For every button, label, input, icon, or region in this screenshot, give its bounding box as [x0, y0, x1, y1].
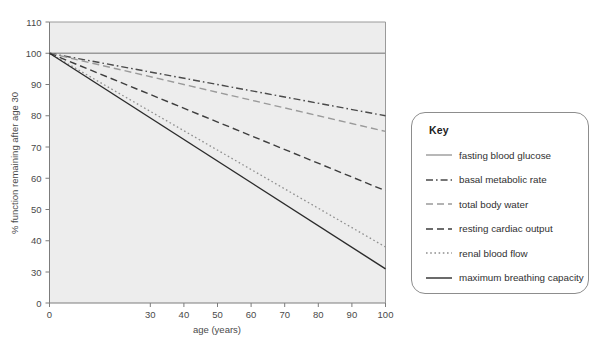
legend-item-total-body-water[interactable]: total body water	[426, 192, 582, 217]
legend-item-renal-blood-flow[interactable]: renal blood flow	[426, 241, 582, 266]
legend-title: Key	[429, 124, 449, 136]
legend-item-fasting-blood-glucose[interactable]: fasting blood glucose	[426, 143, 582, 168]
y-tick-label: 90	[31, 79, 42, 90]
y-axis-title: % function remaining after age 30	[9, 92, 20, 234]
y-tick-label: 70	[31, 142, 42, 153]
y-tick-label: 110	[26, 17, 41, 28]
x-tick-label: 70	[279, 309, 290, 320]
y-tick-label: 30	[31, 267, 42, 278]
x-axis-ticks: 030405060708090100	[47, 303, 394, 320]
legend-item-maximum-breathing-capacity[interactable]: maximum breathing capacity	[426, 266, 582, 291]
legend-item-label: basal metabolic rate	[459, 174, 547, 185]
legend-line-swatch-dashed-icon	[426, 223, 452, 235]
y-tick-label: 60	[31, 173, 42, 184]
x-tick-label: 30	[145, 309, 156, 320]
y-axis-ticks: 030405060708090100110	[26, 17, 50, 309]
aging-function-line-chart: 030405060708090100110 030405060708090100…	[0, 0, 400, 348]
legend-item-label: total body water	[459, 199, 528, 210]
x-tick-label: 80	[313, 309, 324, 320]
legend-item-label: resting cardiac output	[459, 223, 553, 234]
y-tick-label: 80	[31, 110, 42, 121]
legend-line-swatch-dash-dot-icon	[426, 174, 452, 186]
y-tick-label: 100	[26, 48, 42, 59]
x-tick-label: 90	[347, 309, 358, 320]
legend-item-label: maximum breathing capacity	[459, 272, 584, 283]
legend-line-swatch-dotted-icon	[426, 247, 452, 259]
y-tick-label: 40	[31, 235, 42, 246]
y-tick-label: 50	[31, 204, 42, 215]
x-tick-label: 50	[212, 309, 223, 320]
legend-line-swatch-solid-icon	[426, 272, 452, 284]
legend-items-list: fasting blood glucosebasal metabolic rat…	[426, 143, 582, 290]
legend-item-basal-metabolic-rate[interactable]: basal metabolic rate	[426, 168, 582, 193]
legend-item-label: renal blood flow	[459, 248, 528, 259]
x-tick-label: 0	[47, 309, 52, 320]
legend-line-swatch-dashed-icon	[426, 198, 452, 210]
x-tick-label: 40	[179, 309, 190, 320]
legend-key-box: Key fasting blood glucosebasal metabolic…	[411, 112, 589, 294]
x-tick-label: 60	[246, 309, 257, 320]
legend-item-resting-cardiac-output[interactable]: resting cardiac output	[426, 217, 582, 242]
x-axis-title: age (years)	[193, 324, 241, 335]
legend-line-swatch-solid-icon	[426, 149, 452, 161]
legend-item-label: fasting blood glucose	[459, 150, 551, 161]
chart-canvas: 030405060708090100110 030405060708090100…	[0, 0, 400, 348]
x-tick-label: 100	[378, 309, 394, 320]
y-tick-label: 0	[36, 298, 41, 309]
chart-page: 030405060708090100110 030405060708090100…	[0, 0, 599, 348]
plot-background	[50, 22, 386, 303]
